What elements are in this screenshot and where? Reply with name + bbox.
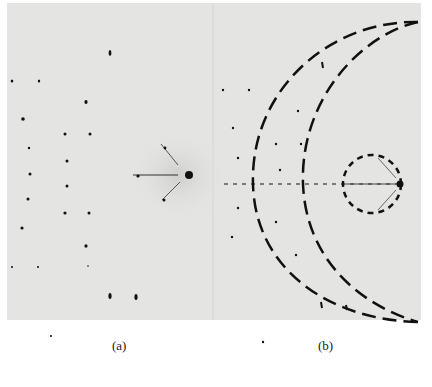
diffraction-spot (109, 50, 112, 56)
diffraction-spot (28, 147, 30, 149)
diffraction-spot (237, 207, 239, 209)
diffraction-spot (63, 211, 66, 214)
diffraction-spot (108, 293, 111, 299)
diffraction-spot (297, 110, 299, 112)
diffraction-spot (275, 221, 277, 223)
diffraction-spot (275, 143, 277, 145)
diffraction-spot (37, 266, 39, 268)
diffraction-spot (231, 236, 233, 238)
diffraction-spot (300, 143, 302, 145)
diffraction-spot (50, 335, 52, 337)
direct-beam-spot (185, 171, 193, 179)
diffraction-spot (248, 89, 250, 91)
diffraction-spot-elongated (321, 302, 322, 308)
diffraction-spot (11, 79, 14, 82)
diffraction-spot (89, 133, 92, 136)
caption-a: (a) (112, 338, 126, 354)
diffraction-spot (21, 117, 25, 121)
diffraction-spot (232, 127, 234, 129)
direct-beam-spot (397, 181, 404, 188)
diffraction-spot (38, 79, 40, 82)
diffraction-spot (136, 174, 139, 177)
caption-b: (b) (318, 338, 333, 354)
diffraction-spot (84, 244, 87, 248)
diffraction-spot (134, 294, 137, 300)
diffraction-spot (64, 133, 67, 136)
diffraction-spot (262, 341, 264, 343)
diffraction-spot (84, 100, 87, 104)
diffraction-spot (237, 157, 239, 159)
diffraction-spot (279, 169, 281, 171)
diffraction-spot (27, 198, 30, 201)
diffraction-spot (20, 226, 23, 229)
diffraction-spot (163, 199, 166, 202)
diffraction-spot (11, 266, 13, 268)
diffraction-spot (87, 265, 89, 267)
diffraction-spot (66, 160, 69, 163)
diffraction-spot (29, 173, 32, 176)
diffraction-spot (295, 254, 297, 256)
diffraction-spot (222, 89, 224, 91)
diffraction-figure (0, 0, 432, 387)
diffraction-spot (66, 185, 69, 188)
diffraction-spot (88, 212, 91, 215)
diffraction-spot-elongated (322, 62, 323, 68)
diffraction-spot (164, 147, 167, 150)
